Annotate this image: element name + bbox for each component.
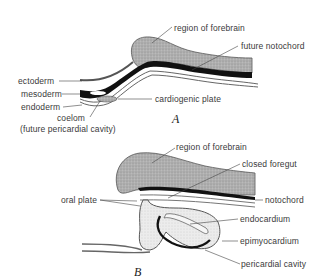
caption-b: B <box>134 265 141 280</box>
label-cardiogenic-plate: cardiogenic plate <box>155 94 221 104</box>
label-pericardial-cavity: pericardial cavity <box>241 259 306 269</box>
figure-b-drawing <box>82 148 263 264</box>
label-region-of-forebrain-a: region of forebrain <box>174 23 245 33</box>
label-oral-plate: oral plate <box>61 195 97 205</box>
label-mesoderm: mesoderm <box>21 89 62 99</box>
label-future-notochord: future notochord <box>241 41 305 51</box>
label-notochord: notochord <box>265 195 304 205</box>
label-closed-foregut: closed foregut <box>242 159 297 169</box>
label-coelom-note: (future pericardial cavity) <box>20 124 116 134</box>
label-ectoderm: ectoderm <box>18 76 54 86</box>
label-endoderm: endoderm <box>21 102 60 112</box>
label-epimyocardium: epimyocardium <box>240 236 299 246</box>
label-endocardium: endocardium <box>240 214 290 224</box>
label-coelom: coelom <box>57 113 85 123</box>
label-region-of-forebrain-b: region of forebrain <box>176 142 247 152</box>
caption-a: A <box>172 112 179 127</box>
